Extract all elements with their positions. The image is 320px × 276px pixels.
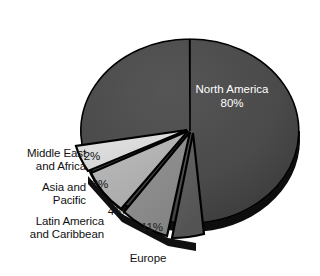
slice-value-north-america: 80%	[220, 97, 243, 109]
pie-chart-figure: North America 80% 11% 4% 3% 2% Middle Ea…	[0, 0, 320, 276]
slice-value-asia-pacific: 3%	[92, 178, 109, 190]
slice-callout-latin-america: Latin America and Caribbean	[0, 215, 104, 240]
slice-callout-europe: Europe	[116, 252, 180, 265]
slice-value-middle-east-africa: 2%	[84, 150, 101, 162]
slice-label-north-america-name: North America	[196, 83, 269, 95]
slice-callout-middle-east-africa: Middle East and Africa	[2, 147, 86, 172]
slice-value-europe: 11%	[141, 221, 163, 233]
slice-value-latin-america: 4%	[108, 205, 125, 217]
slice-callout-asia-pacific: Asia and Pacific	[6, 181, 86, 206]
